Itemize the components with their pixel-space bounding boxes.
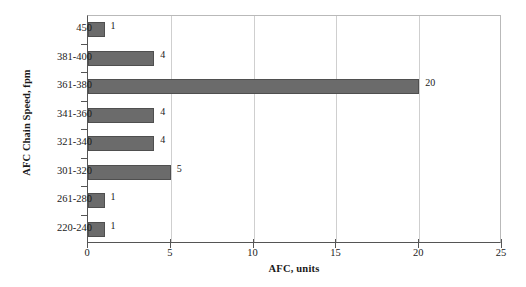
y-tick-mark: [81, 129, 88, 130]
x-axis-title: AFC, units: [87, 263, 501, 274]
bar-row: 4: [88, 45, 500, 74]
y-tick-mark: [81, 158, 88, 159]
bar-value-label: 1: [111, 191, 116, 202]
x-tick-label: 25: [481, 247, 521, 258]
x-tick-label: 20: [398, 247, 438, 258]
bar-row: 5: [88, 159, 500, 188]
bar-value-label: 4: [160, 106, 165, 117]
x-tick-label: 15: [315, 247, 355, 258]
y-tick-mark: [81, 101, 88, 102]
bar-row: 1: [88, 187, 500, 216]
x-tick-label: 0: [67, 247, 107, 258]
y-tick-mark: [81, 72, 88, 73]
x-tick-label: 5: [150, 247, 190, 258]
bar[interactable]: [88, 108, 154, 123]
bar[interactable]: [88, 51, 154, 66]
y-tick-label: 341-360: [0, 108, 92, 119]
bar-value-label: 5: [177, 163, 182, 174]
y-tick-mark: [81, 215, 88, 216]
bar-value-label: 4: [160, 134, 165, 145]
y-tick-label: 450: [0, 22, 92, 33]
bar-chart: AFC Chain Speed, fpm 142044511 AFC, unit…: [0, 0, 526, 287]
x-tick-label: 10: [233, 247, 273, 258]
y-tick-label: 361-380: [0, 79, 92, 90]
y-tick-label: 261-280: [0, 193, 92, 204]
bar-value-label: 4: [160, 49, 165, 60]
bar-row: 1: [88, 16, 500, 45]
bar-value-label: 20: [425, 77, 435, 88]
y-tick-mark: [81, 186, 88, 187]
bar-row: 4: [88, 130, 500, 159]
bar-row: 20: [88, 73, 500, 102]
bar[interactable]: [88, 79, 419, 94]
bar[interactable]: [88, 136, 154, 151]
bar-value-label: 1: [111, 20, 116, 31]
plot-area: 142044511: [87, 15, 501, 243]
bar-row: 4: [88, 102, 500, 131]
y-tick-label: 321-340: [0, 136, 92, 147]
y-tick-label: 381-400: [0, 51, 92, 62]
bar-row: 1: [88, 216, 500, 245]
bar[interactable]: [88, 165, 171, 180]
y-tick-label: 301-320: [0, 165, 92, 176]
y-tick-label: 220-240: [0, 222, 92, 233]
bar-value-label: 1: [111, 220, 116, 231]
y-tick-mark: [81, 44, 88, 45]
